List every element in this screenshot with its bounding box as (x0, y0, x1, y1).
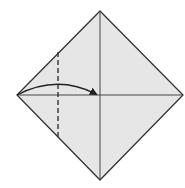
origami-diagram (0, 0, 185, 188)
